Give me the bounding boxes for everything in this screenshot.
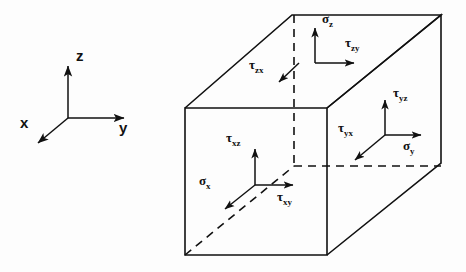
sigma-y-label: σy <box>403 139 415 156</box>
tau-xz-subscript: xz <box>232 138 241 148</box>
x-axis-label: x <box>20 115 28 130</box>
tau-zx-subscript: zx <box>255 65 264 75</box>
sigma-x-subscript: x <box>206 181 211 191</box>
tau-zx-arrow <box>279 63 299 82</box>
sigma-z-label: σz <box>322 12 333 29</box>
sigma-z-subscript: z <box>329 19 333 29</box>
tau-yz-label: τyz <box>393 86 408 103</box>
tau-yx-arrow <box>355 135 385 160</box>
y-axis-label: y <box>119 120 127 135</box>
tau-zy-label: τzy <box>345 36 360 53</box>
tau-xz-label: τxz <box>226 131 241 148</box>
tau-zy-subscript: zy <box>351 43 360 53</box>
tau-yz-subscript: yz <box>399 93 408 103</box>
sigma-x-label: σx <box>199 174 211 191</box>
coordinate-triad <box>38 66 124 143</box>
top-face-stress-arrows <box>279 28 354 82</box>
tau-zx-label: τzx <box>249 58 264 75</box>
sigma-y-subscript: y <box>410 146 415 156</box>
x-axis-arrow <box>38 118 68 143</box>
stress-element-figure: z y x σz τzy τzx τxz τxy σx τyz σy τyx <box>0 0 466 272</box>
z-axis-label: z <box>76 48 84 63</box>
tau-xy-label: τxy <box>277 190 292 207</box>
sigma-x-arrow <box>225 185 255 209</box>
tau-yx-label: τyx <box>338 121 353 138</box>
tau-xy-subscript: xy <box>283 197 292 207</box>
tau-yx-subscript: yx <box>344 128 353 138</box>
